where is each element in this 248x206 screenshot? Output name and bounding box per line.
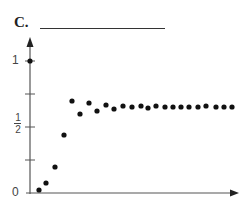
data-point (86, 100, 91, 105)
scatter-plot (0, 0, 248, 206)
data-point (186, 104, 191, 109)
data-point (36, 187, 41, 192)
data-point (129, 104, 134, 109)
data-point (43, 180, 48, 185)
data-point (103, 102, 108, 107)
y-label-one: 1 (12, 53, 19, 67)
data-points (27, 58, 234, 192)
data-point (170, 104, 175, 109)
y-axis-arrow-icon (27, 37, 34, 47)
data-point (52, 164, 57, 169)
data-point (229, 104, 234, 109)
data-point (111, 106, 116, 111)
x-axis-arrow-icon (230, 190, 239, 197)
y-label-zero: 0 (12, 185, 19, 199)
data-point (145, 105, 150, 110)
y-label-half-denominator: 2 (15, 124, 21, 135)
data-point (195, 104, 200, 109)
data-point (162, 104, 167, 109)
data-point (69, 98, 74, 103)
data-point (153, 103, 158, 108)
data-point (203, 103, 208, 108)
data-point (94, 108, 99, 113)
data-point (213, 104, 218, 109)
data-point (138, 103, 143, 108)
data-point (27, 58, 32, 63)
data-point (61, 132, 66, 137)
y-label-half: 1 2 (15, 112, 21, 135)
data-point (120, 103, 125, 108)
data-point (178, 104, 183, 109)
data-point (77, 111, 82, 116)
y-label-half-numerator: 1 (15, 112, 21, 123)
data-point (221, 104, 226, 109)
